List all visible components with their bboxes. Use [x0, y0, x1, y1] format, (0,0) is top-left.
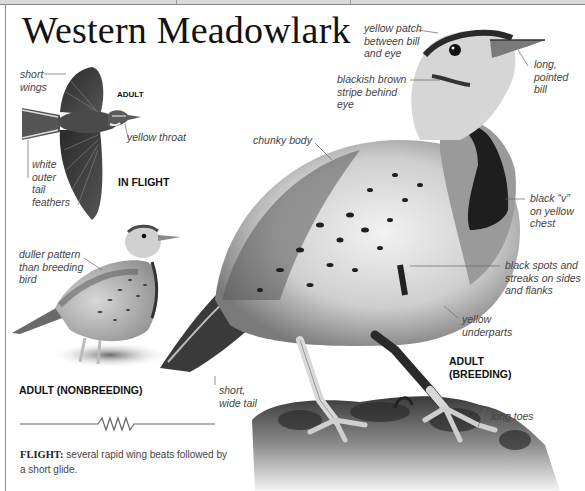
label-yellow-patch: yellow patch between bill and eye [364, 22, 430, 60]
label-black-v: black “v” on yellow chest [530, 192, 582, 230]
heading-adult-breeding-line2: (BREEDING) [449, 368, 511, 381]
label-duller-pattern: duller pattern than breeding bird [19, 248, 91, 286]
label-long-pointed-bill: long, pointed bill [534, 58, 578, 96]
label-long-toes: long toes [491, 410, 534, 423]
label-yellow-throat: yellow throat [127, 131, 186, 144]
heading-adult-nonbreeding: ADULT (NONBREEDING) [19, 384, 142, 397]
label-yellow-underparts: yellow underparts [462, 313, 522, 338]
heading-in-flight: IN FLIGHT [118, 176, 169, 189]
label-blackish-stripe: blackish brown stripe behind eye [337, 73, 413, 111]
label-black-spots: black spots and streaks on sides and fla… [505, 259, 581, 297]
label-white-outer-tail: white outer tail feathers [32, 158, 72, 208]
flight-label: FLIGHT: [20, 449, 64, 460]
heading-adult-breeding-line1: ADULT [449, 355, 511, 368]
heading-adult-breeding: ADULT (BREEDING) [449, 355, 511, 381]
label-chunky-body: chunky body [253, 134, 312, 147]
flight-description: FLIGHT: several rapid wing beats followe… [20, 447, 230, 477]
flight-path-zigzag-icon [20, 418, 215, 430]
heading-adult-flight: ADULT [117, 88, 144, 101]
label-short-wide-tail: short, wide tail [219, 384, 269, 409]
label-short-wings: short wings [20, 68, 62, 93]
